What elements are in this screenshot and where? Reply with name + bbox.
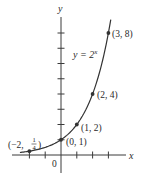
- function-label-base: y = 2: [72, 49, 94, 60]
- data-point: [75, 123, 79, 127]
- data-point: [59, 138, 63, 142]
- point-label-neg2-quarter: (−2, 1 4 ): [8, 136, 41, 151]
- data-point: [91, 92, 95, 96]
- fraction-suffix: ): [38, 140, 41, 151]
- exponential-graph: x y 0 y = 2x (3, 8) (2, 4) (1, 2) (0, 1)…: [0, 0, 143, 187]
- origin-label: 0: [52, 159, 57, 169]
- fraction-prefix: (−2,: [8, 140, 24, 151]
- function-label: y = 2x: [72, 48, 98, 60]
- data-point: [107, 31, 111, 35]
- function-label-exponent: x: [93, 48, 98, 56]
- point-label-1-2: (1, 2): [81, 123, 102, 134]
- point-label-0-1: (0, 1): [66, 137, 87, 148]
- data-point: [28, 149, 32, 153]
- fraction-numerator: 1: [32, 136, 35, 143]
- exponential-curve: [20, 20, 111, 153]
- point-label-2-4: (2, 4): [97, 90, 118, 101]
- x-axis-label: x: [128, 150, 134, 161]
- point-label-3-8: (3, 8): [112, 29, 133, 40]
- y-axis-label: y: [57, 3, 63, 14]
